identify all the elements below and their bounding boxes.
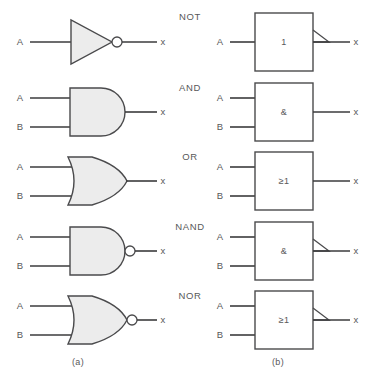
row-and-iec-gate: [230, 83, 350, 141]
operation-label-or: OR: [182, 152, 197, 162]
nand-iec-output-label-x: x: [353, 246, 358, 256]
nand-iec-inner-label: &: [281, 247, 287, 256]
logic-gate-symbols-figure: .wire{stroke:#3b3b3d;stroke-width:1.6;fi…: [0, 0, 372, 377]
not-iec-negation-wedge-icon: [313, 30, 329, 42]
nand-inversion-bubble: [125, 246, 135, 256]
nor-shield-shape-body: [68, 296, 127, 344]
row-nor-iec-gate: [230, 291, 350, 349]
row-or-distinctive-gate: [30, 157, 157, 205]
nand-input-label-b: B: [17, 261, 24, 271]
nand-input-label-a: A: [17, 232, 24, 242]
row-nand-iec-gate: [230, 222, 350, 280]
row-nor-distinctive-gate: [30, 296, 157, 344]
row-not-distinctive-gate: [30, 20, 157, 64]
and-output-label-x: x: [160, 107, 165, 117]
caption-b: (b): [272, 358, 284, 367]
nand-iec-input-label-b: B: [217, 261, 224, 271]
row-or-iec-gate: [230, 152, 350, 210]
nor-input-label-a: A: [17, 301, 24, 311]
not-iec-output-label-x: x: [353, 37, 358, 47]
or-input-label-b: B: [17, 191, 24, 201]
nor-iec-input-label-a: A: [217, 301, 224, 311]
nor-iec-output-label-x: x: [353, 315, 358, 325]
nand-iec-negation-wedge-icon: [313, 239, 329, 251]
or-shield-shape-body: [68, 157, 127, 205]
and-iec-input-label-a: A: [217, 93, 224, 103]
not-inversion-bubble: [112, 37, 122, 47]
operation-label-and: AND: [179, 83, 201, 93]
nor-iec-input-label-b: B: [217, 330, 224, 340]
and-iec-output-label-x: x: [353, 107, 358, 117]
and-input-label-a: A: [17, 93, 24, 103]
nand-iec-input-label-a: A: [217, 232, 224, 242]
nor-iec-negation-wedge-icon: [313, 308, 329, 320]
and-input-label-b: B: [17, 122, 24, 132]
caption-a: (a): [72, 358, 84, 367]
or-iec-output-label-x: x: [353, 176, 358, 186]
not-input-label-a: A: [17, 37, 24, 47]
not-triangle-body: [71, 20, 112, 64]
nor-inversion-bubble: [127, 315, 137, 325]
or-iec-inner-label: ≥1: [279, 177, 290, 186]
operation-label-not: NOT: [179, 12, 201, 22]
or-input-label-a: A: [17, 162, 24, 172]
and-iec-input-label-b: B: [217, 122, 224, 132]
operation-label-nand: NAND: [175, 222, 204, 232]
and-d-shape-body: [70, 88, 125, 136]
and-iec-inner-label: &: [281, 108, 287, 117]
nor-iec-inner-label: ≥1: [279, 316, 290, 325]
not-output-label-x: x: [160, 37, 165, 47]
or-iec-input-label-b: B: [217, 191, 224, 201]
row-not-iec-gate: [230, 13, 350, 71]
not-iec-inner-label: 1: [281, 38, 286, 47]
not-iec-input-label-a: A: [217, 37, 224, 47]
or-iec-input-label-a: A: [217, 162, 224, 172]
nor-input-label-b: B: [17, 330, 24, 340]
row-and-distinctive-gate: [30, 88, 157, 136]
row-nand-distinctive-gate: [30, 227, 157, 275]
or-output-label-x: x: [160, 176, 165, 186]
gate-drawing-canvas: .wire{stroke:#3b3b3d;stroke-width:1.6;fi…: [0, 0, 372, 377]
nand-d-shape-body: [70, 227, 125, 275]
operation-label-nor: NOR: [179, 291, 202, 301]
nand-output-label-x: x: [160, 246, 165, 256]
nor-output-label-x: x: [160, 315, 165, 325]
